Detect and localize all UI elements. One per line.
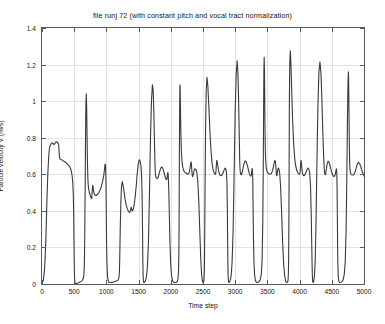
x-axis-tick-top xyxy=(203,28,204,32)
y-axis-tick xyxy=(42,284,46,285)
y-axis-tick xyxy=(42,211,46,212)
y-axis-title-text: Particle velocity V (m/s) xyxy=(0,120,4,191)
line-series-particle-velocity xyxy=(42,28,364,284)
y-axis-tick-right xyxy=(360,211,364,212)
y-axis-tick xyxy=(42,101,46,102)
x-axis-tick xyxy=(332,280,333,284)
y-axis-tick xyxy=(42,138,46,139)
y-axis-tick-label: 0 xyxy=(32,281,36,288)
x-axis-tick-label: 3000 xyxy=(228,288,243,295)
x-axis-tick xyxy=(106,280,107,284)
x-axis-tick-label: 2000 xyxy=(163,288,178,295)
x-axis-tick-top xyxy=(139,28,140,32)
y-axis-tick-right xyxy=(360,174,364,175)
x-axis-tick-top xyxy=(171,28,172,32)
x-axis-title: Time step xyxy=(41,302,365,309)
x-axis-tick-label: 4500 xyxy=(324,288,339,295)
y-axis-tick-right xyxy=(360,101,364,102)
y-axis-tick-right xyxy=(360,247,364,248)
x-axis-tick xyxy=(203,280,204,284)
y-axis-tick xyxy=(42,174,46,175)
y-axis-tick-right xyxy=(360,138,364,139)
x-axis-tick xyxy=(235,280,236,284)
y-axis-tick-label: 1 xyxy=(32,98,36,105)
x-axis-tick-label: 2500 xyxy=(196,288,211,295)
x-axis-tick-label: 1500 xyxy=(131,288,146,295)
x-axis-tick-top xyxy=(267,28,268,32)
figure-canvas: file runj 72 (with constant pitch and vo… xyxy=(0,0,385,324)
x-axis-tick-top xyxy=(42,28,43,32)
x-axis-tick-top xyxy=(332,28,333,32)
x-axis-tick xyxy=(300,280,301,284)
y-axis-tick xyxy=(42,65,46,66)
x-axis-tick-label: 5000 xyxy=(357,288,372,295)
y-axis-tick xyxy=(42,247,46,248)
y-axis-tick-label: 1.2 xyxy=(27,61,36,68)
y-axis-tick-right xyxy=(360,65,364,66)
x-axis-tick-top xyxy=(74,28,75,32)
x-axis-tick-top xyxy=(300,28,301,32)
series-layer xyxy=(42,28,364,284)
x-axis-tick-label: 3500 xyxy=(260,288,275,295)
y-axis-tick-label: 1.4 xyxy=(27,25,36,32)
x-axis-tick-label: 0 xyxy=(40,288,44,295)
x-axis-tick xyxy=(74,280,75,284)
x-axis-tick-top xyxy=(364,28,365,32)
x-axis-tick xyxy=(42,280,43,284)
y-axis-tick-label: 0.6 xyxy=(27,171,36,178)
x-axis-tick xyxy=(267,280,268,284)
x-axis-tick xyxy=(364,280,365,284)
x-axis-tick-top xyxy=(235,28,236,32)
y-axis-tick-label: 0.8 xyxy=(27,134,36,141)
x-axis-tick-label: 500 xyxy=(69,288,80,295)
x-axis-tick-label: 1000 xyxy=(99,288,114,295)
x-axis-tick xyxy=(139,280,140,284)
x-axis-tick-label: 4000 xyxy=(292,288,307,295)
x-axis-tick xyxy=(171,280,172,284)
plot-area: 00.20.40.60.811.21.405001000150020002500… xyxy=(41,27,365,285)
y-axis-tick-label: 0.4 xyxy=(27,207,36,214)
y-axis-tick-right xyxy=(360,284,364,285)
chart-title: file runj 72 (with constant pitch and vo… xyxy=(0,11,385,20)
y-axis-tick-label: 0.2 xyxy=(27,244,36,251)
x-axis-tick-top xyxy=(106,28,107,32)
